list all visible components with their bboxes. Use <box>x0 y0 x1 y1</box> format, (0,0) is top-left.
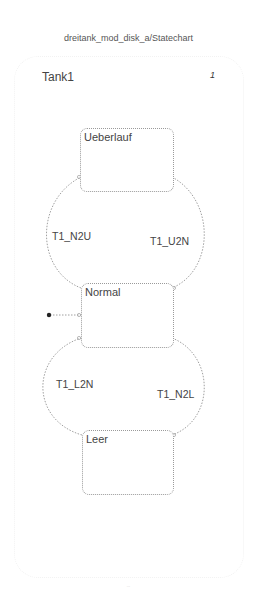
state-label: Leer <box>86 433 108 445</box>
transition-n2l-edge[interactable] <box>172 338 204 435</box>
footer-text: ... <box>0 583 257 588</box>
state-ueberlauf[interactable]: Ueberlauf <box>80 128 174 192</box>
transition-label-u2n[interactable]: T1_U2N <box>150 235 189 247</box>
state-leer[interactable]: Leer <box>82 430 174 495</box>
transition-label-n2l[interactable]: T1_N2L <box>157 388 194 400</box>
transition-u2n-edge[interactable] <box>172 177 204 288</box>
initial-state-dot <box>47 313 51 317</box>
state-normal[interactable]: Normal <box>81 283 174 348</box>
state-label: Normal <box>85 286 120 298</box>
state-label: Ueberlauf <box>84 131 132 143</box>
transition-label-n2u[interactable]: T1_N2U <box>52 230 91 242</box>
transition-label-l2n[interactable]: T1_L2N <box>56 378 93 390</box>
